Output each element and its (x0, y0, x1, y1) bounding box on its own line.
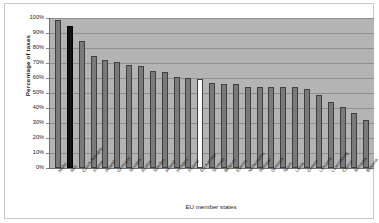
bar[interactable] (162, 72, 168, 168)
bar-slot (289, 18, 301, 168)
bar-slot (182, 18, 194, 168)
y-tick-label: 90% (33, 30, 44, 36)
bar-slot (159, 18, 171, 168)
bar-slot (206, 18, 218, 168)
y-axis-tick-labels: 100%90%80%70%60%50%40%30%20%10%0% (18, 18, 46, 168)
bar-slot (194, 18, 206, 168)
y-tick-label: 50% (33, 90, 44, 96)
bar[interactable] (185, 78, 191, 168)
y-tick-label: 80% (33, 45, 44, 51)
y-tick-label: 0% (36, 165, 44, 171)
y-tick-label: 20% (33, 135, 44, 141)
bar-slot (348, 18, 360, 168)
bar[interactable] (138, 66, 144, 168)
bar[interactable] (233, 84, 239, 168)
bar-slot (111, 18, 123, 168)
bar[interactable] (126, 65, 132, 169)
bar[interactable] (55, 20, 61, 169)
bar-slot (171, 18, 183, 168)
bar-slot (265, 18, 277, 168)
y-tick-label: 40% (33, 105, 44, 111)
bar-slot (360, 18, 372, 168)
x-axis-title: EU member states (49, 203, 373, 210)
bar[interactable] (102, 60, 108, 168)
bar-slot (277, 18, 289, 168)
bar[interactable] (316, 95, 322, 168)
y-tick-label: 70% (33, 60, 44, 66)
bar-slot (337, 18, 349, 168)
bar[interactable] (174, 77, 180, 168)
bar[interactable] (197, 79, 203, 168)
bar-slot (135, 18, 147, 168)
bar[interactable] (292, 87, 298, 168)
bar-slot (147, 18, 159, 168)
bar[interactable] (304, 89, 310, 169)
bar-slot (88, 18, 100, 168)
bar[interactable] (268, 87, 274, 168)
bar-slot (123, 18, 135, 168)
bar-slot (313, 18, 325, 168)
bar[interactable] (351, 113, 357, 169)
bar-slot (76, 18, 88, 168)
bar[interactable] (221, 84, 227, 168)
bar-slot (301, 18, 313, 168)
bar-slot (254, 18, 266, 168)
bar[interactable] (67, 26, 73, 169)
figure-frame: Percentage of taxes 100%90%80%70%60%50%4… (4, 3, 374, 219)
bar-slot (325, 18, 337, 168)
y-tick-label: 30% (33, 120, 44, 126)
bar-slot (64, 18, 76, 168)
bar[interactable] (79, 41, 85, 169)
bar-slot (242, 18, 254, 168)
bar-slot (52, 18, 64, 168)
y-tick-label: 10% (33, 150, 44, 156)
bar-slot (218, 18, 230, 168)
bar[interactable] (245, 87, 251, 168)
y-tick-label: 60% (33, 75, 44, 81)
y-tick-label: 100% (30, 15, 44, 21)
bar[interactable] (150, 71, 156, 169)
bar-slot (230, 18, 242, 168)
bar[interactable] (114, 62, 120, 169)
x-axis-tick-labels: MaltaItalyCzech RepublicFrancePolandGerm… (49, 170, 373, 202)
